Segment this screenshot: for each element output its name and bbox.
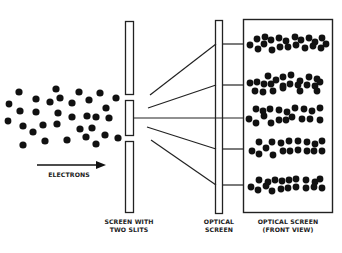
double-slit-diagram — [0, 0, 342, 253]
optical-screen-label: OPTICAL SCREEN — [195, 218, 243, 234]
electrons-label: ELECTRONS — [38, 171, 100, 179]
interference-rays — [134, 44, 243, 185]
optical-screen — [216, 21, 223, 214]
slit-screen-label: SCREEN WITH TWO SLITS — [97, 218, 161, 234]
front-view-label: OPTICAL SCREEN (FRONT VIEW) — [245, 218, 331, 234]
electron-cloud — [5, 85, 122, 148]
slit-screen — [126, 22, 134, 213]
electron-direction-arrow-icon — [37, 161, 106, 169]
